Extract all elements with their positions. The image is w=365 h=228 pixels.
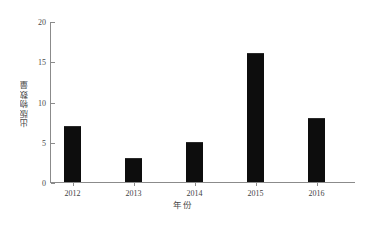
- bar: [64, 126, 81, 182]
- x-tick-mark: [195, 183, 196, 186]
- x-tick-mark: [317, 183, 318, 186]
- bar: [186, 142, 203, 182]
- y-tick-label: 10: [38, 98, 46, 107]
- y-tick-mark: [51, 62, 55, 63]
- y-tick-label: 5: [42, 138, 46, 147]
- bar: [308, 118, 325, 182]
- bar-chart-figure: 出版物数量 05101520 20122013201420152016 年份: [0, 0, 365, 228]
- x-tick-mark: [73, 183, 74, 186]
- bar: [125, 158, 142, 182]
- y-axis-label: 出版物数量: [18, 58, 32, 148]
- x-tick-mark: [256, 183, 257, 186]
- y-tick-mark: [51, 183, 55, 184]
- y-tick-label: 20: [38, 18, 46, 27]
- x-axis-label: 年份: [0, 198, 365, 210]
- x-tick-label: 2016: [309, 189, 325, 198]
- plot-area: 05101520 20122013201420152016: [50, 22, 355, 183]
- x-axis-spine: [50, 182, 355, 183]
- bar: [247, 53, 264, 182]
- y-tick-label: 15: [38, 58, 46, 67]
- y-tick-label: 0: [42, 179, 46, 188]
- y-tick-mark: [51, 103, 55, 104]
- x-tick-label: 2015: [248, 189, 264, 198]
- x-tick-label: 2012: [65, 189, 81, 198]
- x-tick-label: 2013: [126, 189, 142, 198]
- x-tick-mark: [134, 183, 135, 186]
- y-tick-mark: [51, 143, 55, 144]
- x-tick-label: 2014: [187, 189, 203, 198]
- y-tick-mark: [51, 22, 55, 23]
